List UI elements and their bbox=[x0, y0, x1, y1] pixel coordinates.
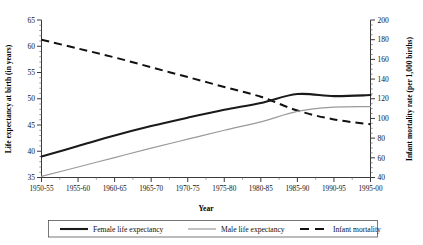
right-tick-label: 40 bbox=[378, 173, 386, 182]
life-expectancy-infant-mortality-chart: 35404550556065 Life expectancy at birth … bbox=[0, 0, 423, 245]
right-tick-label: 80 bbox=[378, 134, 386, 143]
right-axis-ticks bbox=[371, 20, 376, 178]
left-tick-label: 55 bbox=[28, 68, 36, 77]
chart-figure: 35404550556065 Life expectancy at birth … bbox=[0, 0, 423, 245]
left-axis-title: Life expectancy at birth (in years) bbox=[4, 44, 13, 153]
legend-label-male: Male life expectancy bbox=[221, 225, 285, 234]
x-tick-label: 1960-65 bbox=[103, 185, 127, 193]
x-tick-label: 1995-00 bbox=[359, 185, 383, 193]
left-axis-tick-labels: 35404550556065 bbox=[28, 16, 36, 183]
right-axis: 406080100120140160180200 Infant mortalit… bbox=[371, 16, 415, 183]
x-axis: 1950-551955-601960-651965-701970-751975-… bbox=[30, 178, 383, 214]
legend-label-female: Female life expectancy bbox=[93, 225, 164, 234]
left-tick-label: 65 bbox=[28, 16, 36, 25]
right-tick-label: 200 bbox=[378, 16, 390, 25]
x-tick-label: 1965-70 bbox=[139, 185, 163, 193]
left-axis: 35404550556065 Life expectancy at birth … bbox=[4, 16, 42, 183]
x-axis-tick-labels: 1950-551955-601960-651965-701970-751975-… bbox=[30, 185, 383, 193]
x-tick-label: 1955-60 bbox=[66, 185, 90, 193]
right-tick-label: 100 bbox=[378, 114, 390, 123]
left-axis-ticks bbox=[37, 20, 42, 178]
left-tick-label: 50 bbox=[28, 94, 36, 103]
left-tick-label: 60 bbox=[28, 42, 36, 51]
x-tick-label: 1990-95 bbox=[322, 185, 346, 193]
left-tick-label: 35 bbox=[28, 173, 36, 182]
page-artifact-text bbox=[88, 1, 90, 7]
right-tick-label: 120 bbox=[378, 94, 390, 103]
series-line-female-life-expectancy bbox=[42, 94, 371, 157]
right-tick-label: 180 bbox=[378, 35, 390, 44]
plot-series bbox=[42, 40, 371, 177]
x-tick-label: 1950-55 bbox=[30, 185, 54, 193]
x-tick-label: 1970-75 bbox=[176, 185, 200, 193]
x-tick-label: 1975-80 bbox=[212, 185, 236, 193]
right-tick-label: 140 bbox=[378, 75, 390, 84]
right-tick-label: 160 bbox=[378, 55, 390, 64]
right-tick-label: 60 bbox=[378, 154, 386, 163]
right-axis-title: Infant mortality rate (per 1,000 births) bbox=[405, 36, 414, 161]
x-axis-title: Year bbox=[199, 204, 215, 213]
x-tick-label: 1980-85 bbox=[249, 185, 273, 193]
left-tick-label: 40 bbox=[28, 147, 36, 156]
chart-legend: Female life expectancy Male life expecta… bbox=[49, 221, 382, 238]
left-tick-label: 45 bbox=[28, 121, 36, 130]
x-tick-label: 1985-90 bbox=[285, 185, 309, 193]
right-axis-tick-labels: 406080100120140160180200 bbox=[378, 16, 390, 183]
x-axis-ticks bbox=[42, 178, 371, 183]
legend-label-infant: Infant mortality bbox=[333, 225, 381, 234]
series-line-infant-mortality bbox=[42, 40, 371, 125]
